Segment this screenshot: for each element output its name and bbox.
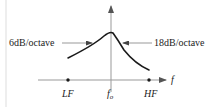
fo-label: fo — [107, 89, 113, 101]
lf-label: LF — [62, 89, 74, 99]
hf-label: HF — [144, 89, 157, 99]
frequency-response-diagram: 6dB/octave 18dB/octave LF fo HF f — [0, 0, 219, 107]
left-slope-label: 6dB/octave — [9, 38, 55, 48]
response-curve — [68, 32, 149, 70]
lf-marker-dot — [66, 78, 69, 81]
x-axis-label: f — [171, 75, 174, 85]
fo-label-subscript: o — [110, 93, 114, 101]
right-slope-label: 18dB/octave — [154, 38, 205, 48]
hf-marker-dot — [147, 78, 150, 81]
